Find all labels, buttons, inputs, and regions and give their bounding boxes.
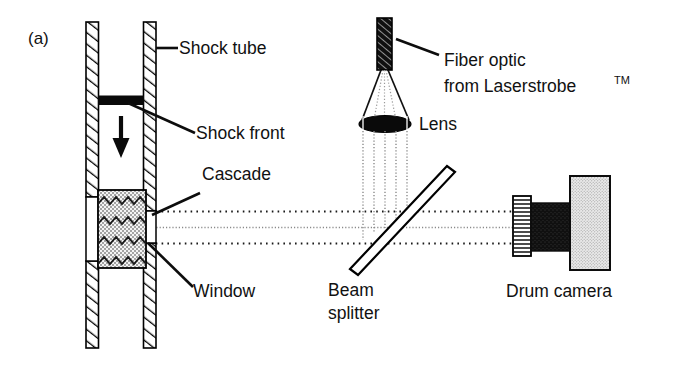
cascade	[98, 190, 146, 268]
label-drum-camera: Drum camera	[506, 281, 612, 301]
drum-camera-body	[531, 203, 572, 251]
cascade-block	[98, 190, 146, 268]
leader-lines	[128, 39, 439, 287]
label-lens: Lens	[419, 114, 457, 134]
label-window: Window	[193, 281, 256, 301]
label-shock-front: Shock front	[196, 123, 285, 143]
label-beam-splitter-line1: Beam	[328, 280, 374, 300]
lens	[359, 116, 411, 134]
shock-tube-left-wall-upper	[86, 22, 99, 197]
flow-direction-arrow	[113, 116, 130, 158]
label-fiber-optic-line1: Fiber optic	[444, 50, 526, 70]
lens-body	[359, 116, 411, 133]
drum-camera-housing	[570, 176, 610, 270]
label-fiber-optic-line2: from Laserstrobe	[444, 76, 576, 96]
leader-shock-front	[128, 103, 195, 133]
panel-label: (a)	[28, 29, 49, 48]
optical-beam-paths	[150, 212, 522, 244]
drum-camera	[513, 176, 610, 270]
diagram-canvas: (a)	[0, 0, 695, 375]
optical-setup-diagram: (a)	[0, 0, 695, 375]
label-shock-tube: Shock tube	[179, 38, 267, 58]
window-left	[86, 197, 99, 261]
shock-tube-left-wall-lower	[86, 261, 99, 348]
drum-camera-lens-barrel	[513, 196, 531, 256]
leader-cascade	[152, 193, 200, 215]
label-trademark-superscript: TM	[614, 74, 630, 86]
shock-front	[98, 96, 144, 106]
leader-fiber-optic	[396, 39, 439, 55]
shock-tube	[86, 22, 156, 348]
shock-tube-right-wall-upper	[144, 22, 157, 211]
light-cone-upper	[362, 70, 409, 120]
beam-splitter	[350, 166, 455, 275]
beam-splitter-plate	[350, 166, 455, 275]
label-cascade: Cascade	[202, 164, 271, 184]
label-beam-splitter-line2: splitter	[328, 303, 380, 323]
fiber-optic-tip	[377, 18, 392, 70]
